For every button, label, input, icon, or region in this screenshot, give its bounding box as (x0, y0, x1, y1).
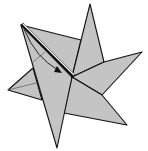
origami-diagram (0, 0, 148, 151)
center-point (71, 76, 73, 78)
star-figure (8, 4, 142, 148)
